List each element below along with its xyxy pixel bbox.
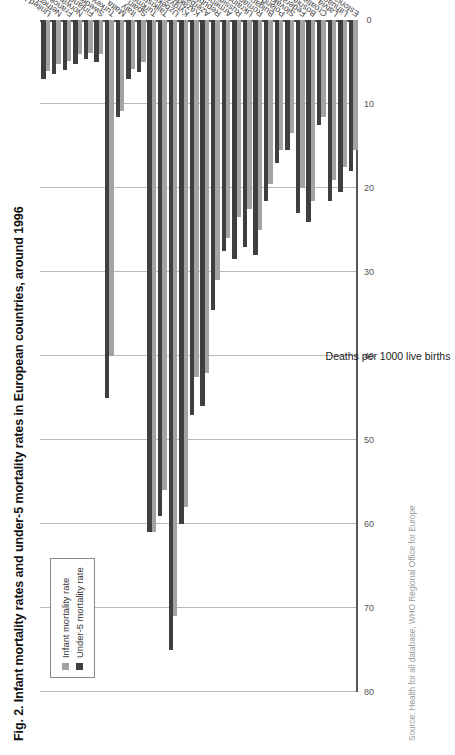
bar-infant xyxy=(215,20,219,280)
bar-infant xyxy=(311,20,315,201)
bar-group xyxy=(231,20,242,692)
bar-infant xyxy=(194,20,198,377)
bar-infant xyxy=(162,20,166,490)
axis-title-label: Deaths per 1000 live births xyxy=(308,350,455,362)
bar-infant xyxy=(300,20,304,188)
tick-label: 10 xyxy=(361,99,377,109)
tick-label: 50 xyxy=(361,435,377,445)
tick-label: 80 xyxy=(361,687,377,697)
tick-label: 60 xyxy=(361,519,377,529)
bar-group xyxy=(199,20,210,692)
bar-infant xyxy=(141,20,145,62)
bar-infant xyxy=(258,20,262,230)
legend-swatch-icon xyxy=(76,663,83,670)
bar-infant xyxy=(131,20,135,69)
bar-group xyxy=(220,20,231,692)
bar-group xyxy=(273,20,284,692)
bar-group xyxy=(178,20,189,692)
bar-infant xyxy=(56,20,60,64)
legend-item: Infant mortality rate xyxy=(60,567,71,670)
bar-group xyxy=(104,20,115,692)
bar-infant xyxy=(99,20,103,54)
bar-group xyxy=(294,20,305,692)
bar-infant xyxy=(67,20,71,61)
bar-infant xyxy=(226,20,230,238)
bar-infant xyxy=(46,20,50,71)
tick-label: 0 xyxy=(361,15,377,25)
bar-group xyxy=(146,20,157,692)
bar-infant xyxy=(78,20,82,54)
bar-group xyxy=(157,20,168,692)
source-note: Source: Health for all database, WHO Reg… xyxy=(408,505,417,741)
tick-label: 20 xyxy=(361,183,377,193)
bar-group xyxy=(135,20,146,692)
chart-title: Fig. 2. Infant mortality rates and under… xyxy=(12,206,26,741)
bar-infant xyxy=(173,20,177,616)
tick-label: 30 xyxy=(361,267,377,277)
legend-swatch-icon xyxy=(62,663,69,670)
bar-infant xyxy=(279,20,283,150)
bar-group xyxy=(241,20,252,692)
bar-infant xyxy=(321,20,325,117)
bar-infant xyxy=(343,20,347,167)
bar-group xyxy=(167,20,178,692)
bar-infant xyxy=(152,20,156,532)
legend-label: Infant mortality rate xyxy=(60,578,71,658)
legend-item: Under-5 mortality rate xyxy=(74,567,85,670)
chart-legend: Infant mortality rateUnder-5 mortality r… xyxy=(50,558,95,678)
bar-group xyxy=(40,20,51,692)
bar-infant xyxy=(353,20,357,150)
bar-group xyxy=(210,20,221,692)
bar-group xyxy=(188,20,199,692)
bar-infant xyxy=(268,20,272,184)
legend-label: Under-5 mortality rate xyxy=(74,567,85,658)
bar-infant xyxy=(290,20,294,133)
bar-infant xyxy=(332,20,336,180)
bar-infant xyxy=(109,20,113,356)
bar-infant xyxy=(205,20,209,373)
bar-infant xyxy=(247,20,251,209)
bar-group xyxy=(114,20,125,692)
bar-group xyxy=(284,20,295,692)
bar-group xyxy=(252,20,263,692)
bar-infant xyxy=(120,20,124,111)
bar-infant xyxy=(184,20,188,507)
bar-infant xyxy=(88,20,92,53)
tick-label: 70 xyxy=(361,603,377,613)
bar-infant xyxy=(237,20,241,217)
bar-group xyxy=(125,20,136,692)
bar-group xyxy=(263,20,274,692)
